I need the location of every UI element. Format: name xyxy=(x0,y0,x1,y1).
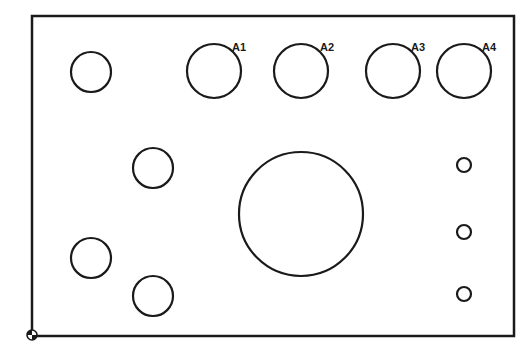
hole-label-a2: A2 xyxy=(320,41,334,53)
hole-label-a1: A1 xyxy=(232,41,246,53)
medium-hole-3 xyxy=(71,238,111,278)
medium-holes-group xyxy=(71,52,173,316)
labeled-holes-group: A1A2A3A4 xyxy=(187,41,497,98)
plate-outline xyxy=(32,16,514,336)
medium-hole-1 xyxy=(71,52,111,92)
medium-hole-4 xyxy=(133,276,173,316)
large-center-hole xyxy=(239,152,363,276)
small-hole-1 xyxy=(457,158,471,172)
plate-diagram: A1A2A3A4 xyxy=(0,0,532,343)
origin-marker-icon xyxy=(27,330,37,340)
small-hole-2 xyxy=(457,225,471,239)
small-holes-group xyxy=(457,158,471,301)
hole-label-a4: A4 xyxy=(482,41,497,53)
small-hole-3 xyxy=(457,287,471,301)
hole-label-a3: A3 xyxy=(411,41,425,53)
medium-hole-2 xyxy=(133,148,173,188)
